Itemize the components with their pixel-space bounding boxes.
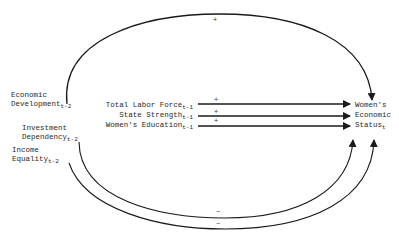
subscript: t-2 xyxy=(61,103,72,110)
edge-econ-dev-arc xyxy=(67,14,372,104)
node-label: Total Labor Force xyxy=(106,101,183,109)
subscript: t-1 xyxy=(182,104,193,111)
subscript: t-2 xyxy=(67,136,78,143)
node-income-equality: Income Equalityt-2 xyxy=(12,146,59,166)
sign-womens-edu: + xyxy=(214,118,218,125)
node-label-line: Dependency xyxy=(22,133,67,141)
sign-state-strength: + xyxy=(214,109,218,116)
edge-invest-dep-arc xyxy=(79,140,353,218)
node-label-line: Income xyxy=(12,146,59,155)
node-label-line: Status xyxy=(355,121,382,129)
node-womens-education: Women's Educationt-1 xyxy=(106,121,193,132)
sign-invest-dep: − xyxy=(216,209,220,216)
sign-income-eq: − xyxy=(216,221,220,228)
node-label-line: Women's xyxy=(355,100,391,110)
node-label-line: Economic xyxy=(11,91,71,100)
subscript: t-1 xyxy=(182,124,193,131)
node-womens-economic-status: Women's Economic Statust xyxy=(355,100,391,133)
diagram-canvas xyxy=(0,0,399,236)
subscript: t-2 xyxy=(48,158,59,165)
subscript: t-1 xyxy=(182,114,193,121)
sign-labor-force: + xyxy=(214,97,218,104)
node-label-line: Economic xyxy=(355,110,391,120)
sign-econ-dev: + xyxy=(213,17,217,24)
node-label: State Strength xyxy=(119,111,182,119)
node-label-line: Development xyxy=(11,100,61,108)
node-investment-dependency: Investment Dependencyt-2 xyxy=(22,124,78,144)
node-label-line: Equality xyxy=(12,155,48,163)
node-label: Women's Education xyxy=(106,121,183,129)
edge-income-eq-arc xyxy=(69,140,374,229)
node-economic-development: Economic Developmentt-2 xyxy=(11,91,71,111)
node-label-line: Investment xyxy=(22,124,78,133)
subscript: t xyxy=(382,124,386,131)
